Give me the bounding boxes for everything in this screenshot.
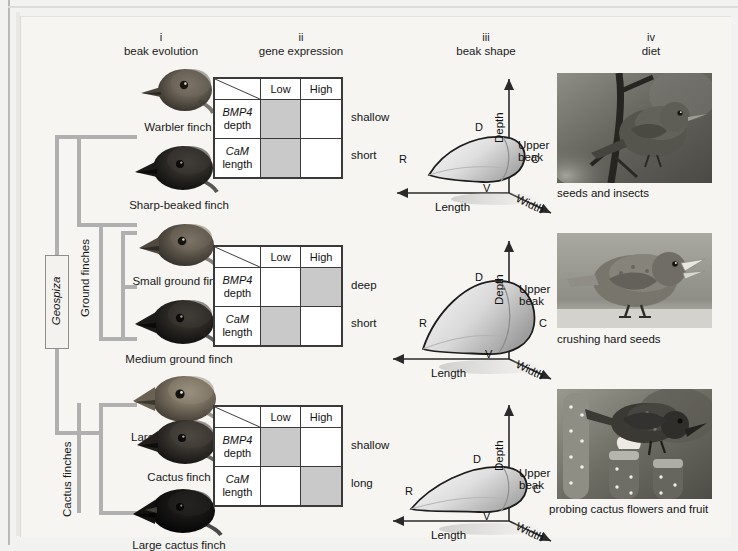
diet-caption-3: probing cactus flowers and fruit xyxy=(549,503,708,515)
gene-table-1-header-high: High xyxy=(301,79,342,100)
group-label-cactus-finches: Cactus finches xyxy=(61,442,73,517)
beak-1-landmark-V: V xyxy=(483,182,491,194)
gene-name-bmp4: BMP4 xyxy=(215,274,260,287)
gene-name-cam: CaM xyxy=(215,145,260,158)
beak-shape-diagram-2: R D V C Length Depth Width Upper beak xyxy=(391,231,566,381)
beak-shape-diagram-3: R D V C Length Depth Width Upper beak xyxy=(391,393,566,543)
gene-table-1-bmp4-high[interactable] xyxy=(301,100,342,139)
gene-table-2-outcome-depth: deep xyxy=(351,279,377,291)
column-name-beak-evolution: beak evolution xyxy=(81,44,241,58)
gene-table-2-bmp4-high[interactable] xyxy=(301,268,342,307)
column-header-gene-expression: ii gene expression xyxy=(221,31,381,58)
gene-table-1-row-cam-label: CaM length xyxy=(215,139,261,178)
finch-label-sharp-beaked: Sharp-beaked finch xyxy=(117,199,241,211)
beak-3-upper-beak-line1: Upper xyxy=(519,467,550,479)
column-roman-ii: ii xyxy=(221,31,381,44)
beak-3-upper-beak-line2: beak xyxy=(519,479,544,491)
finch-photo-large-cactus xyxy=(131,483,223,537)
column-name-gene-expression: gene expression xyxy=(221,44,381,58)
beak-1-landmark-D: D xyxy=(475,121,483,133)
column-roman-iv: iv xyxy=(591,31,711,44)
beak-1-landmark-R: R xyxy=(399,153,407,165)
beak-1-axis-depth: Depth xyxy=(493,112,505,143)
figure-panel: i beak evolution ii gene expression iii … xyxy=(20,16,731,537)
gene-table-3-cam-low[interactable] xyxy=(260,467,300,506)
group-label-ground-finches-text: Ground finches xyxy=(79,239,91,317)
column-name-diet: diet xyxy=(591,44,711,58)
beak-3-landmark-R: R xyxy=(405,485,413,497)
beak-3-axis-depth: Depth xyxy=(493,440,505,471)
gene-table-2-bmp4-low[interactable] xyxy=(260,268,300,307)
gene-table-1-cam-low[interactable] xyxy=(260,139,300,178)
gene-table-3-bmp4-low[interactable] xyxy=(260,428,300,467)
beak-2-upper-beak-line2: beak xyxy=(519,295,544,307)
beak-1-axis-length: Length xyxy=(435,201,470,213)
beak-2-landmark-V: V xyxy=(485,348,493,360)
column-roman-iii: iii xyxy=(406,31,566,44)
group-label-cactus-finches-text: Cactus finches xyxy=(61,442,73,517)
beak-2-axis-width: Width xyxy=(514,358,546,381)
gene-trait-depth: depth xyxy=(215,287,260,300)
tree-branch-cactus-stem xyxy=(77,403,81,513)
gene-table-1-cam-high[interactable] xyxy=(301,139,342,178)
tree-tip-small-ground xyxy=(121,231,137,235)
gene-table-2-header-high: High xyxy=(301,247,342,268)
gene-table-2-corner xyxy=(215,247,261,268)
gene-trait-length: length xyxy=(215,158,260,171)
finch-label-cactus: Cactus finch xyxy=(133,471,225,483)
gene-table-2-cam-high[interactable] xyxy=(301,307,342,346)
diet-caption-1: seeds and insects xyxy=(557,187,649,199)
gene-table-1-outcome-depth: shallow xyxy=(351,111,389,123)
gene-trait-depth: depth xyxy=(215,447,260,460)
beak-3-axis-width: Width xyxy=(514,520,546,543)
finch-label-large-cactus: Large cactus finch xyxy=(113,539,245,551)
gene-name-bmp4: BMP4 xyxy=(215,106,260,119)
gene-table-1-bmp4-low[interactable] xyxy=(260,100,300,139)
beak-2-axis-length: Length xyxy=(431,367,466,379)
beak-2-axis-depth: Depth xyxy=(493,274,505,305)
gene-name-cam: CaM xyxy=(215,473,260,486)
gene-name-bmp4: BMP4 xyxy=(215,434,260,447)
gene-table-3-cam-high[interactable] xyxy=(301,467,342,506)
tree-tip-warbler xyxy=(77,135,137,139)
gene-table-1-header-low: Low xyxy=(260,79,300,100)
tree-branch-ground-stem xyxy=(99,223,103,341)
gene-table-1-row-bmp4-label: BMP4 depth xyxy=(215,100,261,139)
tree-branch-cactus-pair xyxy=(99,403,103,513)
tree-branch-upper-clade xyxy=(77,135,81,227)
gene-table-3-bmp4-high[interactable] xyxy=(301,428,342,467)
geospiza-label: Geospiza xyxy=(45,255,67,347)
gene-name-cam: CaM xyxy=(215,313,260,326)
column-header-beak-shape: iii beak shape xyxy=(406,31,566,58)
beak-3-landmark-V: V xyxy=(483,510,491,522)
beak-2-landmark-C: C xyxy=(539,317,547,329)
beak-2-upper-beak-line1: Upper xyxy=(519,283,550,295)
column-roman-i: i xyxy=(81,31,241,44)
gene-table-2-row-cam-label: CaM length xyxy=(215,307,261,346)
finch-photo-sharp-beaked xyxy=(133,139,219,195)
finch-photo-medium-ground xyxy=(133,293,221,349)
gene-table-2-cam-low[interactable] xyxy=(260,307,300,346)
gene-table-1: Low High BMP4 depth CaM length xyxy=(213,77,343,179)
gene-table-3-outcome-length: long xyxy=(351,477,373,489)
gene-table-2-outcome-length: short xyxy=(351,317,377,329)
diet-photo-2 xyxy=(557,233,712,328)
beak-1-upper-beak-line1: Upper xyxy=(518,139,549,151)
gene-trait-length: length xyxy=(215,486,260,499)
gene-table-3-header-low: Low xyxy=(260,407,300,428)
gene-trait-depth: depth xyxy=(215,119,260,132)
gene-table-3-row-cam-label: CaM length xyxy=(215,467,261,506)
beak-2-landmark-D: D xyxy=(475,271,483,283)
finch-label-medium-ground: Medium ground finch xyxy=(111,353,247,365)
column-header-beak-evolution: i beak evolution xyxy=(81,31,241,58)
gene-table-3-row-bmp4-label: BMP4 depth xyxy=(215,428,261,467)
column-name-beak-shape: beak shape xyxy=(406,44,566,58)
gene-trait-length: length xyxy=(215,326,260,339)
beak-2-landmark-R: R xyxy=(419,317,427,329)
group-label-ground-finches: Ground finches xyxy=(79,239,91,317)
gene-table-1-corner xyxy=(215,79,261,100)
finch-photo-warbler xyxy=(139,61,217,117)
beak-3-landmark-D: D xyxy=(473,453,481,465)
gene-table-1-outcome-length: short xyxy=(351,149,377,161)
gene-table-2: Low High BMP4 depth CaM length xyxy=(213,245,343,347)
